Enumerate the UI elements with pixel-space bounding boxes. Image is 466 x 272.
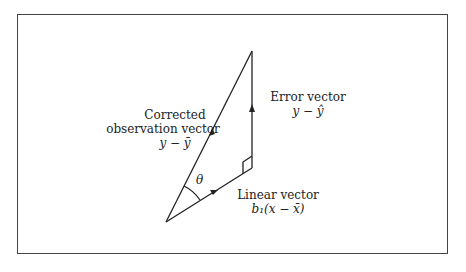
- linear-label: Linear vector b₁(x − x̄): [228, 188, 328, 216]
- angle-arc: [184, 186, 200, 200]
- error-label: Error vector y − ŷ: [258, 90, 358, 118]
- arrow-icon: [249, 104, 255, 112]
- corrected-label: Corrected observation vector y − ȳ: [110, 108, 240, 150]
- theta-label: θ: [196, 173, 203, 187]
